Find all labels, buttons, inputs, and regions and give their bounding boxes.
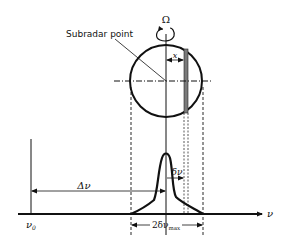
two-delta-nu-max-label: 2δνmax [152, 220, 181, 231]
nu-axis-label: ν [267, 208, 273, 219]
small-delta-nu-label: δν [172, 167, 183, 177]
omega-label: Ω [162, 14, 170, 25]
radar-doppler-diagram: Ω Subradar point x ν ν0 Δν δν 2δνmax [0, 0, 282, 242]
subradar-point-label: Subradar point [66, 29, 134, 39]
echo-spectrum-curve [131, 154, 203, 215]
rotation-arrowhead-icon [158, 26, 163, 31]
x-label: x [173, 51, 178, 60]
delta-nu-label: Δν [76, 180, 90, 191]
nu0-label: ν0 [26, 219, 36, 231]
